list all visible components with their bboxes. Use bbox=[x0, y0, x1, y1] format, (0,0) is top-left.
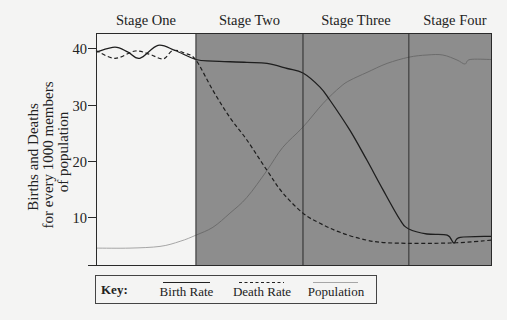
legend-title: Key: bbox=[101, 282, 128, 297]
y-tick-label-10: 10 bbox=[73, 210, 88, 226]
y-axis-ticks: 10 20 30 40 bbox=[73, 41, 97, 226]
stage-two-label: Stage Two bbox=[219, 12, 280, 28]
legend-birth-rate-label: Birth Rate bbox=[160, 284, 214, 299]
y-tick-label-40: 40 bbox=[73, 41, 88, 57]
stage-four-label: Stage Four bbox=[423, 12, 486, 28]
stage-one-region bbox=[96, 33, 196, 265]
y-axis-label-line-3: of population bbox=[55, 111, 71, 192]
stage-three-label: Stage Three bbox=[321, 12, 390, 28]
legend-key: Key: Birth Rate Death Rate Population bbox=[96, 276, 377, 304]
demographic-transition-chart: Stage One Stage Two Stage Three Stage Fo… bbox=[0, 0, 507, 320]
stage-one-label: Stage One bbox=[116, 12, 176, 28]
y-tick-label-20: 20 bbox=[73, 154, 88, 170]
y-axis-label: Births and Deaths for every 1000 members… bbox=[25, 81, 71, 228]
stage-three-region bbox=[303, 33, 409, 265]
y-axis-label-line-2: for every 1000 members bbox=[40, 81, 56, 228]
legend-population-label: Population bbox=[308, 284, 365, 299]
stage-four-region bbox=[409, 33, 491, 265]
y-tick-label-30: 30 bbox=[73, 98, 88, 114]
stage-labels: Stage One Stage Two Stage Three Stage Fo… bbox=[116, 12, 487, 28]
legend-death-rate-label: Death Rate bbox=[233, 284, 291, 299]
stage-regions bbox=[96, 33, 491, 265]
y-axis-label-line-1: Births and Deaths bbox=[25, 103, 41, 211]
